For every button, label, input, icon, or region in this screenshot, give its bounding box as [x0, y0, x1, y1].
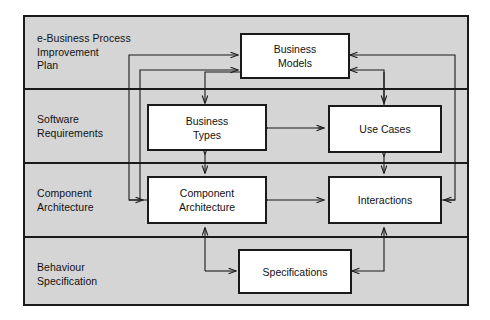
node-interactions[interactable]: Interactions	[328, 176, 442, 224]
node-business-types[interactable]: Business Types	[147, 104, 267, 151]
node-use-cases[interactable]: Use Cases	[328, 105, 442, 153]
diagram-canvas: e-Business Process Improvement Plan Soft…	[0, 0, 490, 320]
lane-label-software-requirements: Software Requirements	[37, 113, 103, 140]
lane-label-component-architecture: Component Architecture	[37, 187, 94, 214]
node-component-architecture[interactable]: Component Architecture	[147, 176, 267, 224]
lane-divider-2	[25, 162, 467, 164]
lane-divider-1	[25, 88, 467, 90]
node-business-models[interactable]: Business Models	[240, 33, 350, 79]
lane-divider-3	[25, 236, 467, 238]
lane-label-behaviour-specification: Behaviour Specification	[37, 261, 97, 288]
node-specifications[interactable]: Specifications	[238, 249, 352, 294]
lane-label-ebusiness-process-improvement-plan: e-Business Process Improvement Plan	[37, 32, 131, 73]
